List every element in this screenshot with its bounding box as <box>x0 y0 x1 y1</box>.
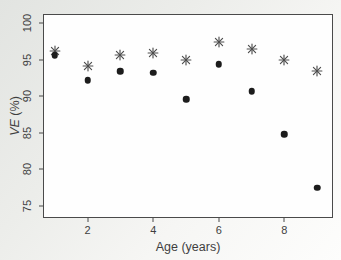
circle-marker <box>84 77 91 84</box>
y-axis-tick-label: 95 <box>21 54 33 66</box>
plot-area: 24687580859095100 <box>43 14 333 218</box>
x-axis-title: Age (years) <box>43 240 333 254</box>
circle-marker <box>52 52 59 59</box>
y-axis-tick-label: 75 <box>21 200 33 212</box>
y-axis-title-unit: (%) <box>8 96 22 119</box>
x-axis-tick <box>87 217 88 222</box>
data-point-circle <box>183 96 190 103</box>
y-axis-title-em: VE <box>8 119 22 136</box>
data-point-asterisk <box>181 55 192 66</box>
y-axis-tick-label: 85 <box>21 127 33 139</box>
data-point-circle <box>52 52 59 59</box>
y-axis-tick-label: 90 <box>21 90 33 102</box>
data-point-circle <box>281 131 288 138</box>
data-point-circle <box>314 184 321 191</box>
y-axis-tick <box>39 132 44 133</box>
circle-marker <box>117 68 124 75</box>
data-point-asterisk <box>312 65 323 76</box>
y-axis-tick <box>39 23 44 24</box>
data-point-circle <box>150 70 157 77</box>
y-axis-tick-label: 80 <box>21 163 33 175</box>
x-axis-tick <box>153 217 154 222</box>
x-axis-tick-label: 4 <box>150 224 156 236</box>
data-point-asterisk <box>148 48 159 59</box>
x-axis-tick-label: 8 <box>281 224 287 236</box>
chart-figure: 24687580859095100 Age (years) VE (%) <box>0 0 341 260</box>
data-point-asterisk <box>82 61 93 72</box>
data-point-circle <box>248 88 255 95</box>
circle-marker <box>183 96 190 103</box>
circle-marker <box>281 131 288 138</box>
data-point-asterisk <box>246 44 257 55</box>
circle-marker <box>150 70 157 77</box>
y-axis-tick-label: 100 <box>21 14 33 32</box>
circle-marker <box>248 88 255 95</box>
data-point-circle <box>216 61 223 68</box>
y-axis-tick <box>39 206 44 207</box>
x-axis-tick <box>218 217 219 222</box>
x-axis-tick <box>284 217 285 222</box>
y-axis-tick <box>39 169 44 170</box>
y-axis-tick <box>39 96 44 97</box>
data-point-asterisk <box>279 54 290 65</box>
data-point-asterisk <box>115 50 126 61</box>
circle-marker <box>216 61 223 68</box>
data-point-circle <box>84 77 91 84</box>
data-point-asterisk <box>213 37 224 48</box>
y-axis-title: VE (%) <box>8 96 22 136</box>
circle-marker <box>314 184 321 191</box>
data-point-circle <box>117 68 124 75</box>
y-axis-tick <box>39 59 44 60</box>
x-axis-tick-label: 2 <box>85 224 91 236</box>
x-axis-tick-label: 6 <box>216 224 222 236</box>
